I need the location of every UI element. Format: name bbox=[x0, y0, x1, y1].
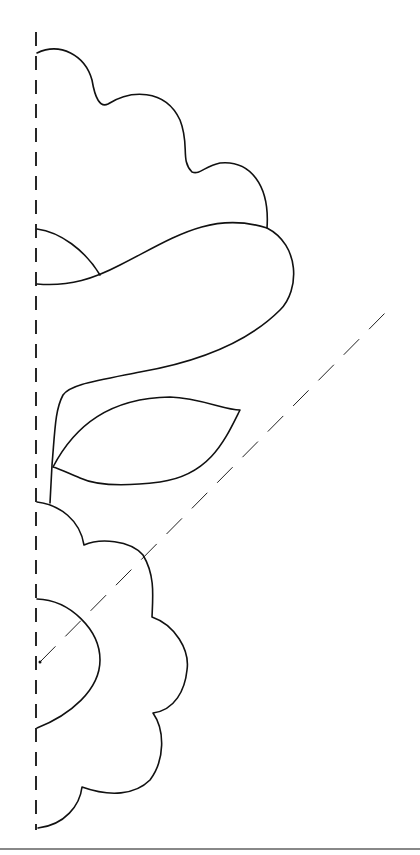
small-half-circle-outline bbox=[37, 229, 100, 275]
scalloped-flower-outline bbox=[37, 502, 187, 828]
bottom-rule bbox=[0, 848, 420, 850]
wave-band-outline bbox=[37, 223, 294, 503]
cutout-template-drawing bbox=[0, 0, 420, 855]
flower-center-half-circle-outline bbox=[37, 599, 100, 728]
top-scalloped-cloud-outline bbox=[37, 49, 267, 228]
diagonal-guide-line bbox=[40, 310, 388, 662]
leaf-outline bbox=[53, 397, 240, 485]
center-dot bbox=[39, 661, 42, 664]
